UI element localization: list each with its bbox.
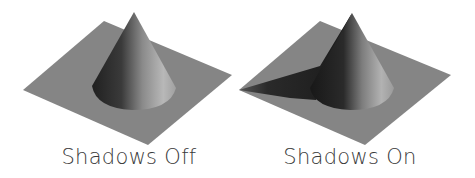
panel-shadows-on <box>239 13 451 145</box>
label-shadows-on: Shadows On <box>283 145 416 169</box>
label-shadows-off: Shadows Off <box>61 145 196 169</box>
panel-shadows-off <box>23 12 232 145</box>
